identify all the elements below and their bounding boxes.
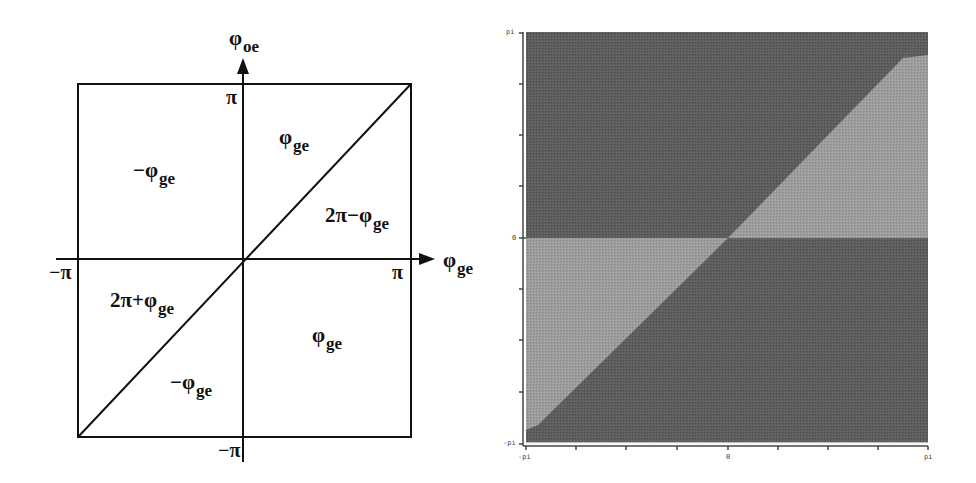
y-tick-label-zero: 0 — [512, 235, 516, 242]
x-axis-arrow-icon — [419, 253, 435, 265]
x-tick-pi: π — [392, 262, 403, 282]
y-axis-label: φoe — [229, 28, 259, 49]
diagonal-line — [79, 85, 410, 436]
y-tick-neg-pi: −π — [218, 440, 240, 460]
x-tick-label-neg-pi: -pi — [518, 454, 531, 461]
region-label-upper-right-below: 2π−φge — [325, 205, 389, 226]
x-tick-neg-pi: −π — [49, 262, 71, 282]
y-tick-label-neg-pi: -pi — [503, 440, 516, 447]
region-label-lower-left-below: −φge — [170, 372, 212, 393]
phase-heatmap-plot: pi 0 -pi -pi 0 pi — [488, 0, 976, 483]
heatmap-canvas — [488, 0, 976, 483]
y-axis-arrow-icon — [237, 58, 249, 74]
diagram-lines — [0, 0, 488, 483]
y-tick-pi: π — [226, 87, 237, 107]
region-label-lower-right: φge — [312, 325, 342, 346]
region-label-upper-left: −φge — [133, 160, 175, 181]
region-label-lower-left-above: 2π+φge — [110, 290, 174, 311]
x-axis-label: φge — [443, 250, 473, 271]
x-tick-label-zero: 0 — [726, 454, 730, 461]
phase-region-diagram: φoe φge −π π π −π −φge φge 2π−φge 2π+φge… — [0, 0, 488, 483]
x-tick-label-pi: pi — [924, 454, 932, 461]
y-tick-label-pi: pi — [506, 29, 514, 36]
region-label-upper-right-above: φge — [279, 127, 309, 148]
